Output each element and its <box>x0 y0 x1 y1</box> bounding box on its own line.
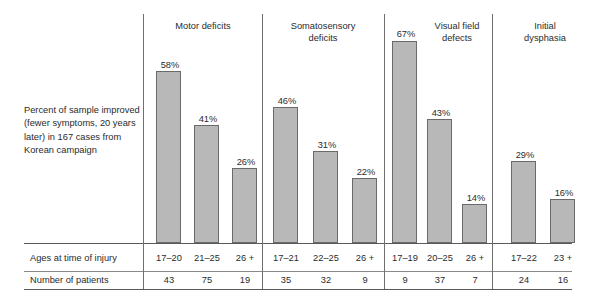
table-cell-patients: 37 <box>421 275 459 285</box>
bar-value-label: 16% <box>547 188 581 198</box>
table-cell-patients: 43 <box>150 275 188 285</box>
group-separator-1 <box>262 14 263 243</box>
table-cell-age: 17–19 <box>386 253 424 263</box>
bar-dysphasia-23-plus <box>550 199 575 243</box>
table-cell-patients: 7 <box>456 275 494 285</box>
bar-visual-17-19 <box>392 41 417 243</box>
table-cell-patients: 32 <box>307 275 345 285</box>
group-title-visual-field-defects: Visual field defects <box>424 20 490 44</box>
table-cell-age: 20–25 <box>421 253 459 263</box>
table-cell-age: 17–22 <box>505 253 543 263</box>
table-cell-age: 21–25 <box>188 253 226 263</box>
table-cell-patients: 75 <box>188 275 226 285</box>
y-axis-caption: Percent of sample improved (fewer sympto… <box>24 104 142 158</box>
table-cell-age: 23 + <box>544 253 582 263</box>
table-cell-age: 26 + <box>346 253 384 263</box>
bar-somatosensory-17-21 <box>273 107 298 243</box>
bar-visual-26-plus <box>462 204 487 243</box>
bar-chart: Percent of sample improved (fewer sympto… <box>0 0 596 307</box>
table-cell-age: 26 + <box>456 253 494 263</box>
table-bottom-rule <box>24 289 572 290</box>
bar-value-label: 31% <box>310 140 344 150</box>
bar-motor-17-20 <box>156 71 181 243</box>
bar-value-label: 67% <box>389 29 423 39</box>
table-cell-patients: 35 <box>267 275 305 285</box>
table-cell-age: 17–20 <box>150 253 188 263</box>
group-separator-3 <box>492 14 493 243</box>
group-title-somatosensory-deficits: Somatosensory deficits <box>268 20 378 44</box>
table-cell-age: 17–21 <box>267 253 305 263</box>
bar-value-label: 14% <box>459 193 493 203</box>
table-cell-age: 26 + <box>226 253 264 263</box>
bar-motor-26-plus <box>232 168 257 243</box>
table-row-label-ages: Ages at time of injury <box>30 253 117 263</box>
bar-somatosensory-26-plus <box>352 178 377 243</box>
group-title-initial-dysphasia: Initial dysphasia <box>505 20 585 44</box>
table-cell-patients: 16 <box>544 275 582 285</box>
table-mid-rule <box>24 271 572 272</box>
bar-value-label: 58% <box>153 60 187 70</box>
table-cell-patients: 24 <box>505 275 543 285</box>
bar-value-label: 22% <box>349 167 383 177</box>
bar-somatosensory-22-25 <box>313 151 338 243</box>
table-top-rule <box>24 243 572 244</box>
table-separator-0 <box>143 243 144 289</box>
bar-value-label: 41% <box>191 114 225 124</box>
table-cell-age: 22–25 <box>307 253 345 263</box>
group-separator-2 <box>384 14 385 243</box>
table-separator-2 <box>384 243 385 289</box>
bar-motor-21-25 <box>194 125 219 243</box>
table-row-label-patients: Number of patients <box>30 275 109 285</box>
bar-dysphasia-17-22 <box>511 161 536 243</box>
group-separator-0 <box>143 14 144 243</box>
table-cell-patients: 9 <box>386 275 424 285</box>
bar-value-label: 43% <box>424 108 458 118</box>
table-cell-patients: 19 <box>226 275 264 285</box>
group-title-motor-deficits: Motor deficits <box>148 20 258 32</box>
bar-value-label: 46% <box>270 96 304 106</box>
bar-value-label: 26% <box>229 157 263 167</box>
table-cell-patients: 9 <box>346 275 384 285</box>
bar-value-label: 29% <box>508 150 542 160</box>
bar-visual-20-25 <box>427 119 452 243</box>
